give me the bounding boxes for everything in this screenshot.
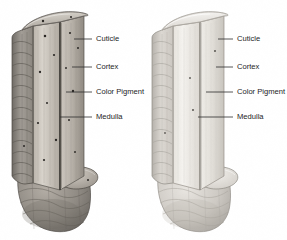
figure-canvas: Cuticle Cortex Color Pigment Medulla (0, 0, 287, 240)
paper-grain-overlay (0, 0, 287, 240)
hair-anatomy-figure: Cuticle Cortex Color Pigment Medulla (0, 0, 287, 240)
